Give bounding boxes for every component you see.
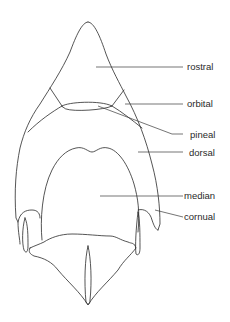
central-posterior-spine [85, 246, 91, 304]
orbital-boundary-right [112, 90, 124, 106]
head-shield-diagram: rostral orbital pineal dorsal median cor… [0, 0, 230, 322]
label-pineal: pineal [190, 129, 215, 140]
label-orbital: orbital [187, 98, 213, 109]
dorsal-boundary-left [28, 106, 62, 132]
posterior-plate [29, 234, 136, 305]
orbital-boundary-left [50, 88, 62, 106]
label-cornual: cornual [184, 211, 215, 222]
pineal-plate [62, 102, 112, 110]
label-rostral: rostral [187, 61, 213, 72]
left-cornual-spine [23, 218, 28, 252]
right-cornual-spine [136, 212, 140, 255]
leader-pineal [98, 106, 183, 134]
right-cornual-hook [138, 209, 158, 230]
median-plate [41, 148, 138, 240]
left-cornual-hook [18, 210, 40, 222]
leader-cornual [155, 210, 183, 217]
label-median: median [184, 190, 215, 201]
label-dorsal: dorsal [189, 147, 215, 158]
